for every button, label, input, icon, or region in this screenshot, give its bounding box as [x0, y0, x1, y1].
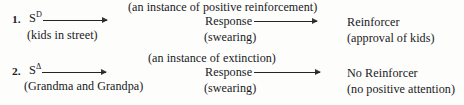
row-1-discriminative-stimulus: SD	[29, 12, 42, 24]
row-2-stimulus-to-response-arrow	[42, 68, 106, 77]
row-1-stimulus-to-response-arrow	[43, 16, 107, 25]
row-1-stimulus-sub-label: (kids in street)	[27, 29, 98, 41]
row-2-item-number: 2.	[12, 66, 21, 77]
arrow-shaft	[254, 72, 320, 73]
row-1-stimulus-superscript: D	[36, 10, 42, 19]
row-1-outcome-label: Reinforcer	[347, 16, 400, 28]
row-2-outcome-sub-label: (no positive attention)	[347, 83, 455, 95]
row-2-outcome-label: No Reinforcer	[347, 67, 418, 79]
row-1-outcome-sub-label: (approval of kids)	[347, 32, 435, 44]
arrow-head-icon	[102, 17, 108, 23]
arrow-shaft	[43, 20, 107, 21]
row-1-stimulus-base: S	[29, 11, 36, 25]
row-2-discriminative-stimulus: SΔ	[29, 64, 41, 76]
row-2-stimulus-base: S	[29, 63, 36, 77]
arrow-head-icon	[315, 69, 321, 75]
arrow-head-icon	[101, 69, 107, 75]
row-2-response-to-outcome-arrow	[254, 68, 320, 77]
row-2-annotation: (an instance of extinction)	[148, 52, 276, 64]
arrow-shaft	[42, 72, 106, 73]
row-2-response-label: Response	[205, 66, 252, 78]
row-1-response-sub-label: (swearing)	[204, 31, 256, 43]
row-1-response-to-outcome-arrow	[254, 17, 317, 26]
row-2-stimulus-superscript: Δ	[36, 62, 41, 71]
row-1-response-label: Response	[205, 15, 252, 27]
contingency-diagram: 1. SD (kids in street) (an instance of p…	[0, 0, 464, 105]
row-2-response-sub-label: (swearing)	[204, 82, 256, 94]
arrow-shaft	[254, 21, 317, 22]
row-1-annotation: (an instance of positive reinforcement)	[128, 1, 317, 13]
contingency-row-1: 1. SD (kids in street) (an instance of p…	[0, 0, 464, 52]
row-2-stimulus-sub-label: (Grandma and Grandpa)	[24, 80, 143, 92]
arrow-head-icon	[312, 18, 318, 24]
row-1-item-number: 1.	[12, 14, 21, 25]
contingency-row-2: 2. SΔ (Grandma and Grandpa) (an instance…	[0, 52, 464, 105]
